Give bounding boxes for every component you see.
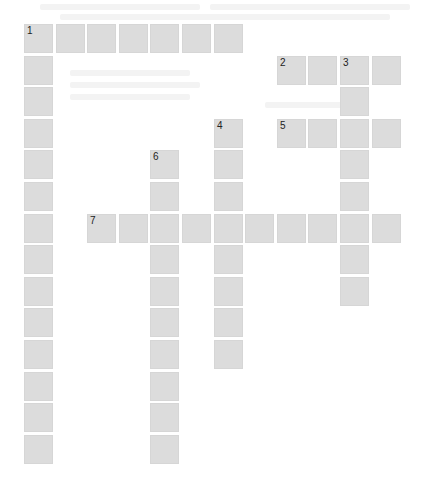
crossword-cell[interactable]: [119, 24, 148, 53]
crossword-cell[interactable]: [308, 119, 337, 148]
crossword-cell[interactable]: [340, 214, 369, 243]
crossword-cell[interactable]: [24, 277, 53, 306]
crossword-cell[interactable]: 1: [24, 24, 53, 53]
clue-number: 3: [343, 58, 349, 68]
crossword-cell[interactable]: [372, 119, 401, 148]
crossword-cell[interactable]: 2: [277, 56, 306, 85]
crossword-cell[interactable]: [308, 214, 337, 243]
crossword-cell[interactable]: [24, 435, 53, 464]
crossword-cell[interactable]: [87, 24, 116, 53]
crossword-cell[interactable]: [150, 308, 179, 337]
clue-number: 4: [217, 121, 223, 131]
crossword-cell[interactable]: [308, 56, 337, 85]
crossword-cell[interactable]: [150, 340, 179, 369]
crossword-cell[interactable]: 4: [214, 119, 243, 148]
crossword-cell[interactable]: [24, 119, 53, 148]
clue-number: 6: [153, 152, 159, 162]
crossword-cell[interactable]: [340, 182, 369, 211]
crossword-cell[interactable]: [150, 24, 179, 53]
crossword-cell[interactable]: [24, 56, 53, 85]
crossword-cell[interactable]: [150, 245, 179, 274]
crossword-cell[interactable]: [214, 182, 243, 211]
clue-number: 7: [90, 216, 96, 226]
crossword-cell[interactable]: [277, 214, 306, 243]
crossword-cell[interactable]: [150, 372, 179, 401]
crossword-cell[interactable]: [214, 277, 243, 306]
crossword-cell[interactable]: [340, 277, 369, 306]
crossword-cell[interactable]: [150, 214, 179, 243]
crossword-cell[interactable]: [214, 24, 243, 53]
crossword-cell[interactable]: [340, 87, 369, 116]
crossword-cell[interactable]: [24, 182, 53, 211]
crossword-cell[interactable]: [214, 214, 243, 243]
crossword-cell[interactable]: [119, 214, 148, 243]
crossword-cell[interactable]: [340, 245, 369, 274]
crossword-cell[interactable]: 3: [340, 56, 369, 85]
crossword-cell[interactable]: [150, 182, 179, 211]
crossword-cell[interactable]: [150, 435, 179, 464]
crossword-cell[interactable]: [56, 24, 85, 53]
crossword-cell[interactable]: [24, 150, 53, 179]
clue-number: 1: [27, 26, 33, 36]
crossword-cell[interactable]: [372, 56, 401, 85]
crossword-cell[interactable]: [24, 214, 53, 243]
crossword-cell[interactable]: [24, 340, 53, 369]
crossword-cell[interactable]: [24, 87, 53, 116]
crossword-cell[interactable]: [340, 119, 369, 148]
crossword-cell[interactable]: [245, 214, 274, 243]
crossword-cell[interactable]: [182, 214, 211, 243]
crossword-cell[interactable]: [214, 340, 243, 369]
crossword-cell[interactable]: [24, 372, 53, 401]
crossword-cell[interactable]: 6: [150, 150, 179, 179]
crossword-cell[interactable]: [340, 150, 369, 179]
crossword-cell[interactable]: [150, 403, 179, 432]
crossword-grid: 1234567: [0, 0, 427, 495]
crossword-cell[interactable]: [182, 24, 211, 53]
crossword-cell[interactable]: [150, 277, 179, 306]
crossword-cell[interactable]: [214, 308, 243, 337]
clue-number: 2: [280, 58, 286, 68]
crossword-cell[interactable]: [24, 308, 53, 337]
crossword-cell[interactable]: 7: [87, 214, 116, 243]
crossword-cell[interactable]: [214, 150, 243, 179]
crossword-cell[interactable]: [24, 403, 53, 432]
crossword-cell[interactable]: 5: [277, 119, 306, 148]
crossword-cell[interactable]: [24, 245, 53, 274]
clue-number: 5: [280, 121, 286, 131]
crossword-cell[interactable]: [372, 214, 401, 243]
crossword-cell[interactable]: [214, 245, 243, 274]
